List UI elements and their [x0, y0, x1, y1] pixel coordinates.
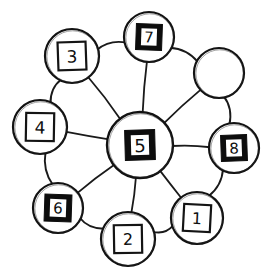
graph-edge: [50, 79, 61, 104]
graph-edge: [79, 218, 104, 229]
node-label: 7: [144, 28, 154, 46]
node-label: 3: [66, 46, 78, 66]
node-label: 8: [229, 139, 239, 157]
graph-edge: [170, 48, 198, 63]
graph-edge: [45, 152, 53, 185]
graph-edge: [152, 225, 173, 232]
graph-edge: [131, 176, 136, 213]
graph-node[interactable]: 1: [171, 192, 223, 244]
graph-node[interactable]: 6: [33, 183, 83, 233]
graph-node[interactable]: [194, 48, 244, 98]
graph-edge: [163, 89, 201, 124]
node-layer: 57812643: [13, 12, 259, 266]
graph-edge: [65, 132, 109, 140]
graph-node[interactable]: 8: [209, 123, 259, 173]
node-label: 4: [34, 117, 45, 137]
graph-node[interactable]: 2: [101, 212, 155, 266]
graph-edge: [97, 42, 126, 50]
graph-edge: [143, 60, 147, 113]
node-label: 6: [53, 199, 63, 217]
graph-edge: [208, 169, 223, 197]
graph-edge: [171, 146, 210, 148]
graph-node[interactable]: 7: [124, 12, 174, 62]
graph-node[interactable]: 4: [13, 100, 67, 154]
node-label: 5: [134, 135, 146, 156]
graph-edge: [87, 76, 120, 120]
graph-node-hub[interactable]: 5: [107, 112, 173, 178]
graph-canvas: 57812643: [0, 0, 278, 276]
graph-edge: [77, 164, 115, 193]
graph-edge: [159, 170, 182, 199]
node-label: 1: [191, 209, 202, 229]
node-label: 2: [123, 230, 134, 249]
graph-figure: 57812643: [0, 0, 278, 276]
graph-node[interactable]: 3: [45, 29, 99, 83]
graph-edge: [224, 96, 231, 125]
